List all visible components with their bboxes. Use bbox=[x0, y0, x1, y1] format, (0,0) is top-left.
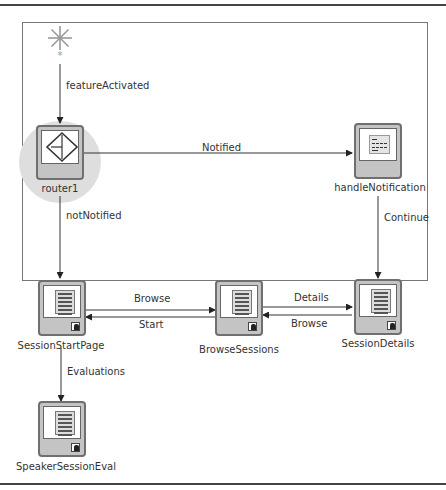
node-label-SpeakerSessionEval: SpeakerSessionEval bbox=[16, 461, 116, 472]
node-SpeakerSessionEval[interactable] bbox=[38, 401, 86, 457]
user-icon bbox=[71, 322, 80, 331]
asterisk-start-icon bbox=[48, 26, 72, 50]
node-label-SessionDetails: SessionDetails bbox=[342, 338, 415, 349]
edge-label-details: Details bbox=[294, 292, 329, 303]
edge-label-start: Start bbox=[139, 319, 163, 330]
node-label-handleNotification: handleNotification bbox=[334, 182, 425, 193]
start-label: * bbox=[58, 50, 63, 61]
node-router1[interactable] bbox=[36, 125, 84, 180]
router-diamond-icon bbox=[42, 131, 82, 163]
node-label-router1: router1 bbox=[42, 183, 79, 194]
user-icon bbox=[71, 443, 80, 452]
page-icon bbox=[55, 411, 75, 435]
edge-label-browse-back: Browse bbox=[291, 318, 327, 329]
edge-label-evaluations: Evaluations bbox=[67, 366, 125, 377]
edge-label-notNotified: notNotified bbox=[66, 210, 121, 221]
node-SessionStartPage[interactable] bbox=[38, 280, 86, 336]
node-label-BrowseSessions: BrowseSessions bbox=[199, 344, 279, 355]
method-call-icon bbox=[369, 135, 390, 154]
page-icon bbox=[371, 289, 391, 313]
page-icon bbox=[232, 290, 252, 314]
user-icon bbox=[387, 321, 396, 330]
node-handleNotification[interactable] bbox=[354, 123, 402, 179]
edge-label-continue: Continue bbox=[384, 212, 429, 223]
page-icon bbox=[55, 290, 75, 314]
node-label-SessionStartPage: SessionStartPage bbox=[18, 340, 105, 351]
user-icon bbox=[248, 322, 257, 331]
node-SessionDetails[interactable] bbox=[354, 279, 402, 335]
edge-label-featureActivated: featureActivated bbox=[66, 80, 149, 91]
edge-label-notified: Notified bbox=[202, 142, 241, 153]
node-BrowseSessions[interactable] bbox=[215, 280, 263, 336]
edge-label-browse: Browse bbox=[134, 293, 170, 304]
